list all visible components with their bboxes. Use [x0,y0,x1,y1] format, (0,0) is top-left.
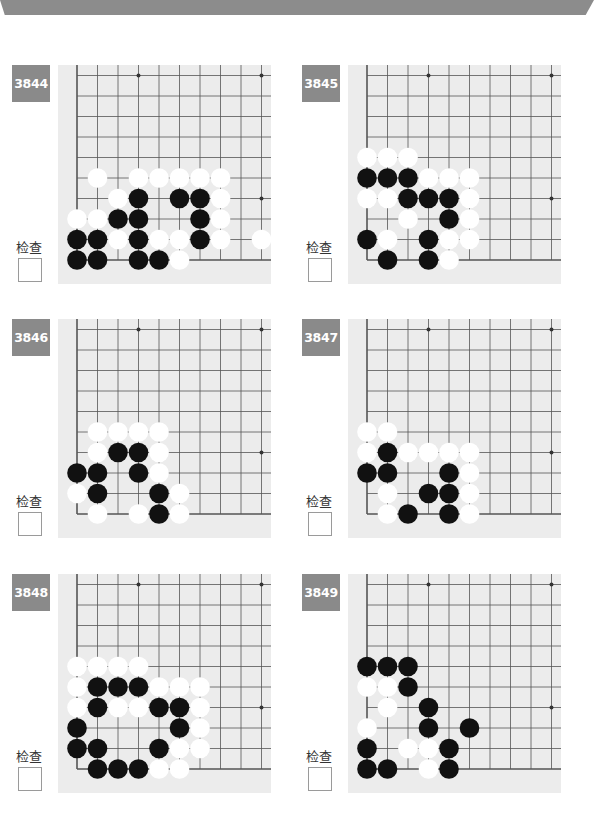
white-stone [378,422,398,442]
check-checkbox[interactable] [18,512,42,536]
problem-3849: 3849 检查 [302,574,592,796]
black-stone [439,189,459,209]
black-stone [129,759,149,779]
check-checkbox[interactable] [308,767,332,791]
black-stone [149,504,169,524]
white-stone [67,484,87,504]
white-stone [398,209,418,229]
white-stone [419,168,439,188]
white-stone [149,759,169,779]
black-stone [88,759,108,779]
problem-number-badge: 3844 [12,65,50,102]
black-stone [129,443,149,463]
go-board [58,319,271,538]
white-stone [129,657,149,677]
problem-3845: 3845 检查 [302,65,592,287]
black-stone [88,484,108,504]
problem-number-badge: 3849 [302,574,340,611]
white-stone [149,443,169,463]
white-stone [170,677,190,697]
problem-number-badge: 3845 [302,65,340,102]
black-stone [398,168,418,188]
white-stone [211,209,231,229]
black-stone [149,250,169,270]
white-stone [88,168,108,188]
white-stone [108,422,128,442]
problem-number-badge: 3846 [12,319,50,356]
white-stone [129,504,149,524]
black-stone [67,463,87,483]
white-stone [357,189,377,209]
white-stone [67,698,87,718]
black-stone [378,759,398,779]
black-stone [378,250,398,270]
white-stone [419,739,439,759]
white-stone [190,168,210,188]
white-stone [252,230,271,250]
go-board [348,65,561,284]
black-stone [129,189,149,209]
white-stone [170,504,190,524]
black-stone [357,657,377,677]
black-stone [108,677,128,697]
black-stone [419,698,439,718]
white-stone [170,739,190,759]
white-stone [108,698,128,718]
white-stone [67,209,87,229]
check-checkbox[interactable] [308,512,332,536]
black-stone [357,168,377,188]
white-stone [149,422,169,442]
black-stone [357,739,377,759]
black-stone [88,250,108,270]
white-stone [67,677,87,697]
white-stone [88,657,108,677]
white-stone [211,189,231,209]
problem-3846: 3846 检查 [12,319,302,541]
white-stone [129,422,149,442]
white-stone [460,463,480,483]
black-stone [88,230,108,250]
check-checkbox[interactable] [18,258,42,282]
go-board [348,574,561,793]
black-stone [398,504,418,524]
white-stone [88,209,108,229]
black-stone [67,250,87,270]
white-stone [149,463,169,483]
white-stone [357,718,377,738]
black-stone [460,718,480,738]
check-label: 检查 [306,491,332,510]
white-stone [88,422,108,442]
black-stone [170,698,190,718]
white-stone [211,230,231,250]
black-stone [108,443,128,463]
black-stone [129,250,149,270]
black-stone [129,230,149,250]
black-stone [357,463,377,483]
black-stone [170,189,190,209]
white-stone [149,677,169,697]
white-stone [357,677,377,697]
white-stone [88,504,108,524]
black-stone [88,677,108,697]
black-stone [149,484,169,504]
black-stone [108,759,128,779]
black-stone [88,463,108,483]
white-stone [460,443,480,463]
white-stone [378,148,398,168]
white-stone [149,168,169,188]
white-stone [88,443,108,463]
white-stone [170,484,190,504]
black-stone [88,698,108,718]
black-stone [129,677,149,697]
white-stone [170,250,190,270]
white-stone [439,230,459,250]
white-stone [170,168,190,188]
check-checkbox[interactable] [308,258,332,282]
white-stone [190,698,210,718]
check-checkbox[interactable] [18,767,42,791]
go-board [58,574,271,793]
black-stone [129,463,149,483]
black-stone [378,168,398,188]
black-stone [67,739,87,759]
black-stone [149,698,169,718]
